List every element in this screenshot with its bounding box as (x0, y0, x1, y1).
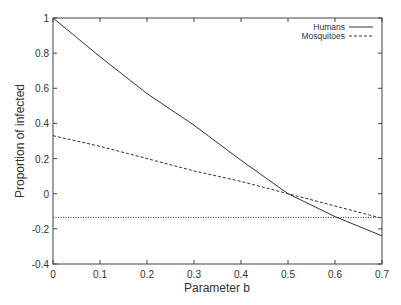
y-tick-label: 0.8 (35, 48, 49, 59)
legend: HumansMosquitoes (302, 22, 373, 41)
x-tick-label: 0.4 (234, 269, 248, 280)
y-tick-label: -0.4 (32, 259, 50, 270)
axes: 00.10.20.30.40.50.60.7-0.4-0.200.20.40.6… (32, 13, 390, 280)
y-tick-label: 1 (43, 13, 49, 24)
line-chart: 00.10.20.30.40.50.60.7-0.4-0.200.20.40.6… (0, 0, 401, 305)
plot-area (53, 18, 382, 236)
y-tick-label: 0.2 (35, 154, 49, 165)
x-tick-label: 0.7 (375, 269, 389, 280)
x-tick-label: 0 (50, 269, 56, 280)
x-axis-label: Parameter b (184, 281, 250, 295)
y-tick-label: 0.4 (35, 118, 49, 129)
series-mosquitoes-line (53, 136, 382, 219)
y-tick-label: 0.6 (35, 83, 49, 94)
x-tick-label: 0.1 (93, 269, 107, 280)
y-tick-label: -0.2 (32, 224, 50, 235)
y-axis-label: Proportion of infected (13, 84, 27, 198)
legend-label: Mosquitoes (302, 31, 345, 41)
x-tick-label: 0.6 (328, 269, 342, 280)
y-tick-label: 0 (43, 189, 49, 200)
x-tick-label: 0.5 (281, 269, 295, 280)
series-humans-line (53, 18, 382, 236)
x-tick-label: 0.3 (187, 269, 201, 280)
x-tick-label: 0.2 (140, 269, 154, 280)
plot-frame (53, 18, 382, 264)
